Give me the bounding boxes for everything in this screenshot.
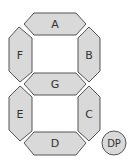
segment-d: D — [24, 132, 86, 155]
segment-g-label: G — [51, 78, 60, 91]
decimal-point-label: DP — [107, 138, 121, 149]
segment-g: G — [24, 73, 86, 95]
segment-f-label: F — [17, 49, 23, 62]
segment-f: F — [9, 27, 32, 82]
segment-e: E — [9, 86, 32, 141]
segment-a: A — [24, 13, 86, 35]
segment-e-label: E — [17, 108, 24, 121]
segment-b: B — [78, 27, 100, 82]
seven-segment-diagram: A F B G E C D DP — [0, 0, 135, 164]
segment-d-label: D — [51, 137, 59, 150]
segment-c: C — [78, 86, 100, 141]
segment-a-label: A — [51, 18, 59, 31]
decimal-point: DP — [102, 131, 126, 155]
segment-b-label: B — [85, 49, 93, 62]
segment-c-label: C — [85, 108, 93, 121]
